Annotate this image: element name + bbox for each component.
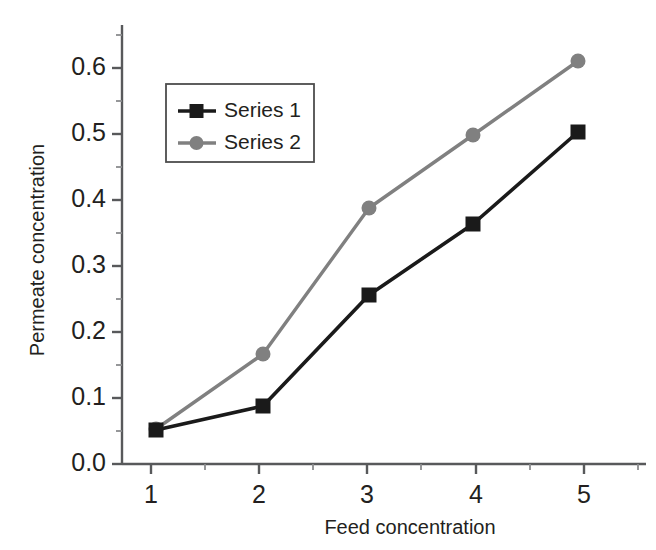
y-tick-label: 0.2 bbox=[71, 316, 106, 344]
x-major-ticks bbox=[151, 464, 584, 474]
x-tick-label: 2 bbox=[252, 480, 266, 508]
y-major-ticks bbox=[112, 68, 122, 464]
line-chart: 0.0 0.1 0.2 0.3 0.4 0.5 0.6 1 2 3 4 5 Fe… bbox=[0, 0, 656, 550]
legend-label-series-1: Series 1 bbox=[224, 98, 301, 121]
series-1-marker bbox=[149, 423, 164, 438]
chart-figure: 0.0 0.1 0.2 0.3 0.4 0.5 0.6 1 2 3 4 5 Fe… bbox=[0, 0, 656, 550]
legend-label-series-2: Series 2 bbox=[224, 130, 301, 153]
y-tick-label: 0.4 bbox=[71, 184, 106, 212]
series-1-marker bbox=[571, 125, 586, 140]
y-tick-labels: 0.0 0.1 0.2 0.3 0.4 0.5 0.6 bbox=[71, 52, 106, 476]
series-1-marker bbox=[256, 399, 271, 414]
series-1-marker bbox=[466, 217, 481, 232]
y-axis-title: Permeate concentration bbox=[26, 144, 48, 356]
x-tick-label: 5 bbox=[577, 480, 591, 508]
legend-swatch-marker-series-1 bbox=[190, 104, 204, 118]
series-2-marker bbox=[256, 347, 271, 362]
x-axis-title: Feed concentration bbox=[324, 516, 495, 538]
y-tick-label: 0.5 bbox=[71, 118, 106, 146]
y-tick-label: 0.3 bbox=[71, 250, 106, 278]
series-2-marker bbox=[571, 54, 586, 69]
y-tick-label: 0.0 bbox=[71, 448, 106, 476]
series-1-group bbox=[149, 125, 586, 438]
series-2-marker bbox=[362, 201, 377, 216]
y-tick-label: 0.1 bbox=[71, 382, 106, 410]
x-tick-labels: 1 2 3 4 5 bbox=[144, 480, 591, 508]
x-tick-label: 3 bbox=[360, 480, 374, 508]
legend-swatch-marker-series-2 bbox=[190, 136, 204, 150]
x-tick-label: 1 bbox=[144, 480, 158, 508]
series-1-marker bbox=[362, 288, 377, 303]
y-tick-label: 0.6 bbox=[71, 52, 106, 80]
x-tick-label: 4 bbox=[469, 480, 483, 508]
series-2-marker bbox=[466, 128, 481, 143]
chart-legend[interactable]: Series 1 Series 2 bbox=[166, 84, 314, 162]
